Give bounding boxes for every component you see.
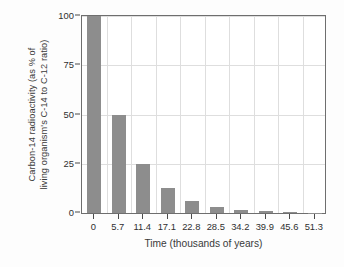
x-axis-tick-mark [118,214,119,219]
x-axis-tick-mark [240,214,241,219]
y-axis-tick-mark [75,64,80,65]
y-axis-title-line-1: Carbon-14 radioactivity (as % of [27,10,39,220]
y-axis-tick-mark [75,212,80,213]
gridline-horizontal [82,16,325,17]
x-axis-tick-label: 51.3 [294,221,334,232]
gridline-vertical [180,16,181,213]
x-axis-tick-mark [314,214,315,219]
bar [87,16,101,213]
y-axis-tick-mark [75,15,80,16]
y-axis-tick-mark [75,113,80,114]
y-axis-tick-label: 0 [46,207,74,218]
x-axis-tick-mark [289,214,290,219]
y-axis-tick-label: 50 [46,108,74,119]
x-axis-tick-mark [265,214,266,219]
x-axis-tick-mark [167,214,168,219]
bar [283,212,297,213]
x-axis-tick-mark [93,214,94,219]
bar [136,164,150,213]
bar [112,115,126,214]
y-axis-tick-label: 25 [46,157,74,168]
chart-figure: Carbon-14 radioactivity (as % of living … [0,0,344,267]
x-axis-tick-mark [142,214,143,219]
y-axis-tick-mark [75,162,80,163]
plot-area [81,15,326,214]
gridline-vertical [229,16,230,213]
gridline-vertical [205,16,206,213]
bar [259,211,273,213]
bar [185,201,199,213]
y-axis-tick-label: 100 [46,10,74,21]
x-axis-title: Time (thousands of years) [81,238,326,249]
gridline-horizontal [82,65,325,66]
y-axis-tick-labels: 0255075100 [44,0,74,267]
x-axis-tick-mark [191,214,192,219]
gridline-vertical [131,16,132,213]
y-axis-tick-label: 75 [46,59,74,70]
x-axis-tick-mark [216,214,217,219]
bar [210,207,224,213]
gridline-vertical [156,16,157,213]
gridline-vertical [278,16,279,213]
gridline-vertical [254,16,255,213]
gridline-vertical [107,16,108,213]
bar [234,210,248,213]
gridline-vertical [303,16,304,213]
bar [161,188,175,213]
